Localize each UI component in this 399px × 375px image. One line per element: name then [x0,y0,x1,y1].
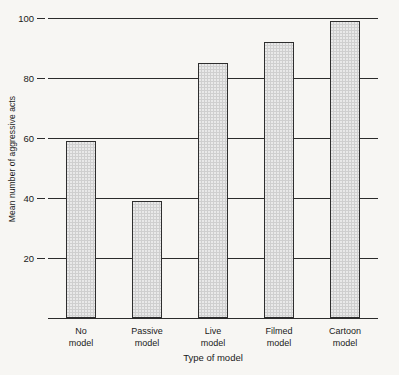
x-tick-label-cartoon-model: Cartoonmodel [308,326,382,349]
x-tick-label-line: model [110,338,184,350]
y-axis-title: Mean number of aggressive acts [5,0,19,318]
x-tick-label-line: model [242,338,316,350]
y-tick-label-20: 20 [23,253,34,264]
x-tick-label-line: Cartoon [329,326,361,336]
gridline-100 [48,18,378,19]
plot-area: 20406080100 [48,18,378,318]
x-tick-label-line: Filmed [265,326,292,336]
y-tick-mark-80 [37,78,45,79]
x-tick-label-line: model [176,338,250,350]
y-tick-mark-60 [37,138,45,139]
x-tick-label-no-model: Nomodel [44,326,118,349]
y-tick-label-40: 40 [23,193,34,204]
y-tick-label-100: 100 [18,13,34,24]
x-tick-label-live-model: Livemodel [176,326,250,349]
x-tick-label-line: model [308,338,382,350]
x-axis-baseline [48,318,378,319]
x-tick-label-line: model [44,338,118,350]
x-axis-title: Type of model [48,352,378,363]
x-tick-label-line: No [75,326,87,336]
bar-no-model [66,141,96,318]
x-tick-label-line: Live [205,326,222,336]
x-tick-label-line: Passive [131,326,163,336]
x-tick-label-passive-model: Passivemodel [110,326,184,349]
y-tick-label-60: 60 [23,133,34,144]
bar-cartoon-model [330,21,360,318]
y-tick-mark-20 [37,258,45,259]
y-tick-mark-40 [37,198,45,199]
y-tick-mark-100 [37,18,45,19]
y-axis-title-text: Mean number of aggressive acts [7,96,17,222]
bar-passive-model [132,201,162,318]
y-tick-label-80: 80 [23,73,34,84]
bar-chart: Mean number of aggressive acts 204060801… [0,0,399,375]
bar-filmed-model [264,42,294,318]
bar-live-model [198,63,228,318]
x-tick-label-filmed-model: Filmedmodel [242,326,316,349]
